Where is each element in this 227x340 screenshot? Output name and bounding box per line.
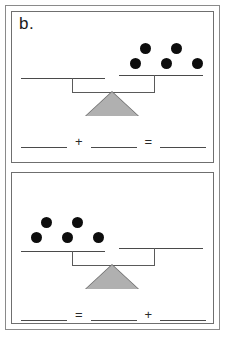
counter-row xyxy=(140,43,182,54)
balance-rod-right xyxy=(154,75,155,92)
black-counter-circle xyxy=(41,217,52,228)
answer-blank[interactable] xyxy=(160,320,206,321)
answer-blank[interactable] xyxy=(91,320,137,321)
black-counter-circle xyxy=(31,232,42,243)
black-counter-circle xyxy=(140,43,151,54)
operator-equals: = xyxy=(142,136,154,148)
black-counter-circle xyxy=(72,217,83,228)
black-counter-circle xyxy=(171,43,182,54)
balance-rod-right xyxy=(154,248,155,265)
page-label: b. xyxy=(19,15,34,32)
counter-row xyxy=(130,58,203,69)
balance-connector-bar xyxy=(72,92,155,93)
black-counter-circle xyxy=(93,232,104,243)
balance-rod-left xyxy=(72,251,73,265)
balance-pan-right xyxy=(119,248,203,249)
answer-blank[interactable] xyxy=(160,147,206,148)
answer-blank[interactable] xyxy=(21,320,67,321)
operator-plus: + xyxy=(142,309,154,321)
black-counter-circle xyxy=(130,58,141,69)
answer-blank[interactable] xyxy=(21,147,67,148)
balance-scale-bottom xyxy=(12,173,213,323)
problem-panel-top: b. xyxy=(11,11,214,163)
operator-plus: + xyxy=(73,136,85,148)
black-counter-circle xyxy=(62,232,73,243)
problem-panel-bottom: = + xyxy=(11,172,214,324)
counter-row xyxy=(41,217,83,228)
operator-equals: = xyxy=(73,309,85,321)
balance-pan-left xyxy=(21,78,105,79)
balance-rod-left xyxy=(72,78,73,92)
equation-row-bottom: = + xyxy=(21,309,206,321)
black-counter-circle xyxy=(161,58,172,69)
balance-pan-left xyxy=(21,251,105,252)
balance-connector-bar xyxy=(72,265,155,266)
equation-row-top: + = xyxy=(21,136,206,148)
answer-blank[interactable] xyxy=(91,147,137,148)
worksheet-page: b. xyxy=(0,0,227,340)
balance-pan-right xyxy=(119,75,203,76)
counter-row xyxy=(31,232,104,243)
black-counter-circle xyxy=(192,58,203,69)
